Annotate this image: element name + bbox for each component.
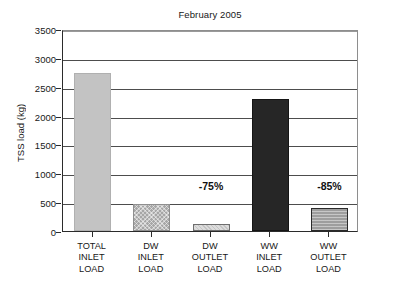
bar [193, 224, 230, 232]
y-axis-tick-label: 3500 [10, 25, 56, 36]
x-axis-tick [269, 232, 270, 237]
x-axis-tick [92, 232, 93, 237]
gridline [63, 31, 357, 32]
percent-annotation: -85% [317, 180, 342, 192]
bar [133, 204, 170, 231]
y-axis-tick-label: 1500 [10, 140, 56, 151]
x-axis-label-line: INLET [240, 252, 299, 263]
percent-annotation: -75% [199, 180, 224, 192]
bar-fill-pattern [253, 100, 288, 230]
x-axis-category-label: DWOUTLETLOAD [180, 241, 239, 275]
y-axis-tick-label: 2000 [10, 111, 56, 122]
x-axis-label-line: INLET [121, 252, 180, 263]
y-axis-tick [56, 30, 61, 31]
x-axis-label-line: LOAD [299, 264, 358, 275]
bar-fill-pattern [134, 205, 169, 230]
y-axis-tick [56, 117, 61, 118]
y-axis-tick-label: 500 [10, 198, 56, 209]
gridline [63, 60, 357, 61]
x-axis-category-label: WWINLETLOAD [240, 241, 299, 275]
x-axis-label-line: LOAD [121, 264, 180, 275]
x-axis-label-line: DW [121, 241, 180, 252]
y-axis-tick-label: 0 [10, 227, 56, 238]
plot-area: -75%-85% [62, 30, 358, 232]
x-axis-label-line: OUTLET [180, 252, 239, 263]
bar-fill-pattern [312, 209, 347, 230]
bar [252, 99, 289, 231]
x-axis-label-line: LOAD [62, 264, 121, 275]
x-axis-tick [151, 232, 152, 237]
y-axis-tick [56, 174, 61, 175]
x-axis-label-line: LOAD [240, 264, 299, 275]
y-axis-tick-label: 2500 [10, 82, 56, 93]
bar [74, 73, 111, 231]
x-axis-tick [328, 232, 329, 237]
x-axis-label-line: WW [240, 241, 299, 252]
x-axis-category-label: WWOUTLETLOAD [299, 241, 358, 275]
x-axis-label-line: LOAD [180, 264, 239, 275]
y-axis-tick-labels: 0500100015002000250030003500 [8, 30, 56, 232]
y-axis-tick [56, 203, 61, 204]
x-axis-category-label: DWINLETLOAD [121, 241, 180, 275]
x-axis-label-line: TOTAL [62, 241, 121, 252]
x-axis-label-line: OUTLET [299, 252, 358, 263]
x-axis-label-line: INLET [62, 252, 121, 263]
bar-fill-pattern [194, 225, 229, 231]
y-axis-tick [56, 59, 61, 60]
bar [311, 208, 348, 231]
x-axis-category-labels: TOTALINLETLOADDWINLETLOADDWOUTLETLOADWWI… [62, 241, 358, 289]
bar-fill-pattern [75, 74, 110, 230]
x-axis-label-line: WW [299, 241, 358, 252]
y-axis-tick [56, 232, 61, 233]
x-axis-category-label: TOTALINLETLOAD [62, 241, 121, 275]
chart-title: February 2005 [62, 9, 358, 20]
y-axis-tick-label: 1000 [10, 169, 56, 180]
y-axis-tick [56, 145, 61, 146]
chart-figure: February 2005 TSS load (kg) 050010001500… [0, 0, 409, 293]
y-axis-tick [56, 88, 61, 89]
y-axis-tick-label: 3000 [10, 53, 56, 64]
x-axis-label-line: DW [180, 241, 239, 252]
x-axis-ticks [62, 232, 358, 238]
x-axis-tick [210, 232, 211, 237]
